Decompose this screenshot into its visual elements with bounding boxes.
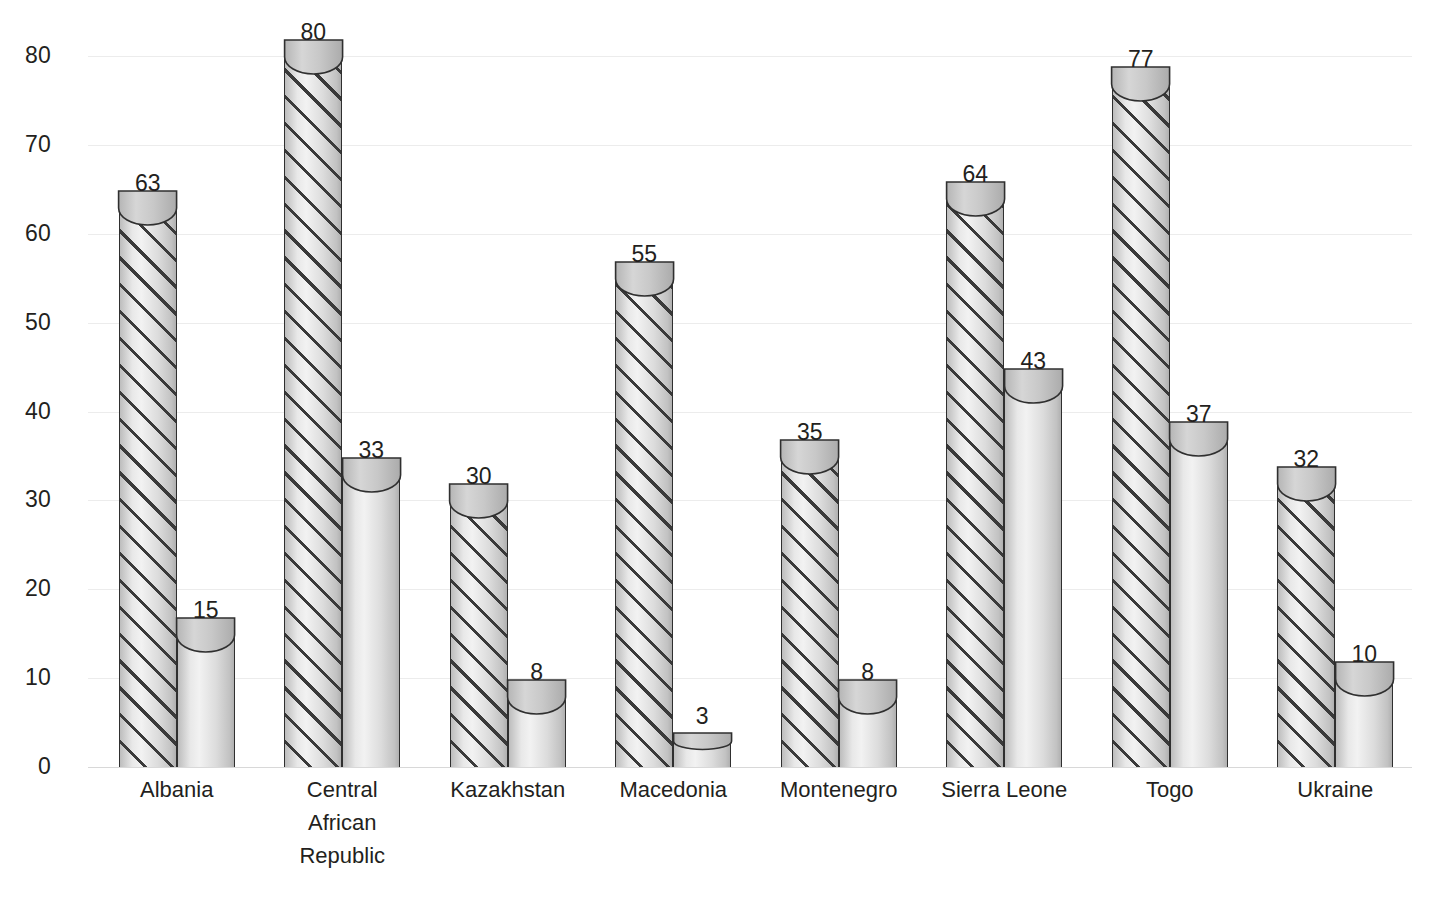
bar-value-label: 33	[358, 439, 384, 462]
bar-shading	[1336, 679, 1392, 767]
bar-value-label: 77	[1128, 48, 1154, 71]
bar[interactable]: 10	[1335, 678, 1393, 767]
bar[interactable]: 55	[615, 278, 673, 767]
plot-area: 80706050403020100 6315Albania8033Central…	[88, 56, 1412, 767]
y-axis-tick-label: 70	[0, 133, 51, 156]
bar-group: 308Kazakhstan	[450, 56, 566, 767]
bar-body	[839, 696, 897, 767]
bar-shading	[674, 741, 730, 767]
bar-group: 7737Togo	[1112, 56, 1228, 767]
bar-shading	[343, 475, 399, 767]
bar-chart: 80706050403020100 6315Albania8033Central…	[0, 0, 1435, 906]
bar-body	[508, 696, 566, 767]
bar-group: 6315Albania	[119, 56, 235, 767]
bar-value-label: 35	[797, 421, 823, 444]
bar-shading	[1278, 484, 1334, 767]
bar-shading	[1171, 439, 1227, 767]
bar-shading	[947, 199, 1003, 767]
bar-body	[1335, 678, 1393, 767]
bar[interactable]: 80	[284, 56, 342, 767]
bar[interactable]: 33	[342, 474, 400, 767]
bar-shading	[840, 697, 896, 767]
bar-value-label: 10	[1351, 643, 1377, 666]
y-axis-tick-label: 40	[0, 400, 51, 423]
bar-value-label: 8	[530, 661, 543, 684]
bar[interactable]: 77	[1112, 83, 1170, 767]
bar-shading	[616, 279, 672, 767]
bar[interactable]: 43	[1004, 385, 1062, 767]
bar-shading	[509, 697, 565, 767]
bar-value-label: 63	[135, 172, 161, 195]
bar-body	[119, 207, 177, 767]
bar[interactable]: 30	[450, 500, 508, 767]
y-axis-tick-label: 0	[0, 755, 51, 778]
x-axis-category-label: Ukraine	[1235, 773, 1435, 806]
bar[interactable]: 32	[1277, 483, 1335, 767]
y-axis-tick-label: 60	[0, 222, 51, 245]
y-axis-tick-label: 10	[0, 666, 51, 689]
bar-value-label: 64	[962, 163, 988, 186]
bar-body	[450, 500, 508, 767]
bar-body	[673, 740, 731, 767]
bar-shading	[178, 635, 234, 767]
bar-body	[342, 474, 400, 767]
bar-shading	[782, 457, 838, 767]
bar-body	[781, 456, 839, 767]
bar[interactable]: 8	[839, 696, 897, 767]
bar[interactable]: 3	[673, 740, 731, 767]
bar[interactable]: 35	[781, 456, 839, 767]
bar-group: 3210Ukraine	[1277, 56, 1393, 767]
y-axis-tick-label: 30	[0, 488, 51, 511]
bar-value-label: 55	[631, 243, 657, 266]
bar-value-label: 32	[1293, 448, 1319, 471]
bar[interactable]: 8	[508, 696, 566, 767]
bar[interactable]: 64	[946, 198, 1004, 767]
bar-group: 8033Central African Republic	[284, 56, 400, 767]
bar[interactable]: 63	[119, 207, 177, 767]
bar-value-label: 37	[1186, 403, 1212, 426]
bar-shading	[1005, 386, 1061, 767]
bar-shading	[451, 501, 507, 767]
bar-body	[1277, 483, 1335, 767]
bar[interactable]: 37	[1170, 438, 1228, 767]
bar-shading	[285, 57, 341, 767]
bar-value-label: 80	[300, 21, 326, 44]
bar-value-label: 43	[1020, 350, 1046, 373]
bar-body	[615, 278, 673, 767]
bar-value-label: 8	[861, 661, 874, 684]
bar-body	[1112, 83, 1170, 767]
bar-shading	[120, 208, 176, 767]
y-axis-tick-label: 80	[0, 44, 51, 67]
bar-group: 358Montenegro	[781, 56, 897, 767]
bar-value-label: 15	[193, 599, 219, 622]
axis-baseline	[88, 767, 1412, 768]
bar-body	[284, 56, 342, 767]
y-axis-tick-label: 20	[0, 577, 51, 600]
bar-group: 553Macedonia	[615, 56, 731, 767]
y-axis-tick-label: 50	[0, 311, 51, 334]
bar-body	[1004, 385, 1062, 767]
bar-body	[177, 634, 235, 767]
bar[interactable]: 15	[177, 634, 235, 767]
bar-value-label: 30	[466, 465, 492, 488]
bar-group: 6443Sierra Leone	[946, 56, 1062, 767]
bar-shading	[1113, 84, 1169, 767]
bar-body	[946, 198, 1004, 767]
bar-body	[1170, 438, 1228, 767]
bar-value-label: 3	[696, 705, 709, 728]
